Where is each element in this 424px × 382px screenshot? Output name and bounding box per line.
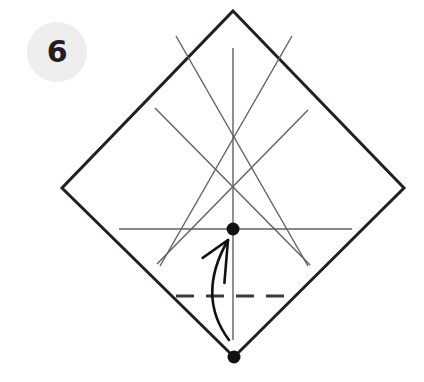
center-reference-dot (227, 223, 240, 236)
bottom-corner-dot (228, 351, 241, 364)
origami-diagram-stage: 6 (0, 0, 424, 382)
step-number-badge: 6 (27, 22, 87, 82)
step-number-label: 6 (47, 37, 67, 67)
